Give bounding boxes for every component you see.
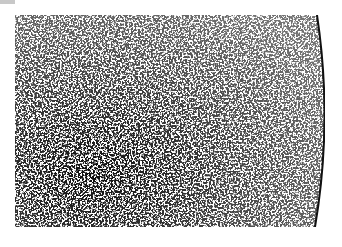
corner-mark — [0, 0, 15, 4]
micrograph-image — [15, 15, 325, 227]
speckle-texture — [15, 15, 325, 227]
